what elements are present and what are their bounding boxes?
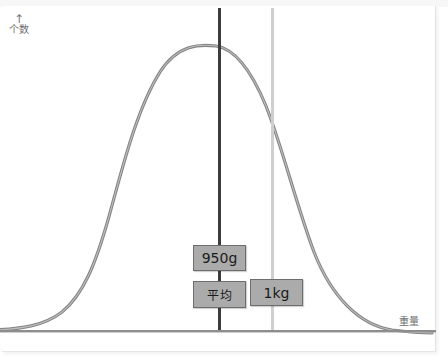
bell-curve-figure: ↑ 个数 950g 平均 1kg 重量 [0, 0, 448, 362]
callout-onekg-label: 1kg [250, 279, 303, 306]
x-axis-label: 重量 [399, 316, 419, 327]
y-axis-label: ↑ 个数 [9, 14, 29, 35]
callout-mean-label: 平均 [193, 281, 246, 308]
x-axis-baseline [0, 330, 436, 332]
y-axis-label-text: 个数 [9, 24, 29, 35]
callout-weight-value: 950g [193, 245, 246, 271]
up-arrow-icon: ↑ [9, 14, 29, 24]
